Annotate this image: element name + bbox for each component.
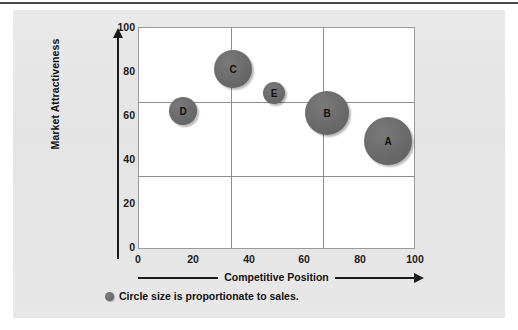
bubble-B[interactable]: B (305, 91, 349, 135)
gridline-horizontal-2 (139, 176, 414, 177)
y-tick-60: 60 (107, 109, 135, 121)
bubble-label-E: E (271, 88, 278, 99)
plot-area: C E D B A (138, 27, 415, 249)
top-divider-rule (0, 2, 518, 4)
x-tick-80: 80 (346, 253, 374, 265)
bubble-E[interactable]: E (263, 82, 285, 104)
y-tick-100: 100 (107, 21, 135, 33)
x-tick-100: 100 (401, 253, 429, 265)
x-tick-40: 40 (235, 253, 263, 265)
x-tick-0: 0 (124, 253, 152, 265)
bubble-label-D: D (179, 106, 186, 117)
circle-swatch-icon (105, 292, 114, 301)
x-tick-20: 20 (179, 253, 207, 265)
bubble-C[interactable]: C (214, 50, 252, 88)
figure-container: Market Attractiveness 100 80 60 40 20 0 … (0, 0, 518, 330)
y-axis-label: Market Attractiveness (49, 19, 61, 169)
x-axis-label: Competitive Position (138, 271, 415, 283)
y-tick-80: 80 (107, 65, 135, 77)
x-tick-60: 60 (290, 253, 318, 265)
bubble-label-A: A (384, 136, 391, 147)
y-tick-40: 40 (107, 153, 135, 165)
bubble-label-C: C (229, 64, 236, 75)
chart-panel: Market Attractiveness 100 80 60 40 20 0 … (13, 10, 505, 318)
x-axis-label-text: Competitive Position (218, 271, 334, 283)
gridline-vertical-2 (323, 28, 324, 248)
y-tick-0: 0 (107, 241, 135, 253)
bubble-A[interactable]: A (364, 117, 412, 165)
y-tick-20: 20 (107, 197, 135, 209)
legend: Circle size is proportionate to sales. (105, 290, 299, 302)
legend-note: Circle size is proportionate to sales. (119, 290, 299, 302)
bubble-label-B: B (323, 108, 330, 119)
bubble-D[interactable]: D (169, 97, 197, 125)
